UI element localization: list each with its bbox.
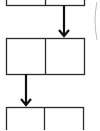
pointer-arrow: [59, 5, 69, 36]
pointer-arrow: [21, 74, 31, 105]
faint-curve: [95, 2, 97, 40]
list-node: [7, 39, 85, 75]
list-node: [7, 0, 85, 6]
list-node: [7, 108, 84, 131]
linked-list-diagram: [0, 0, 100, 130]
